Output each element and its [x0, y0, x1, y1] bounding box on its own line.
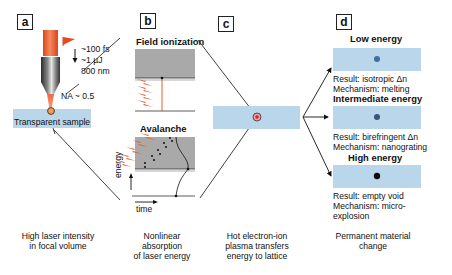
panel-label-b: b [140, 13, 156, 29]
connector-b-c-bottom [200, 121, 254, 198]
caption-a: High laser intensity in focal volume [8, 231, 108, 251]
panel-label-a: a [17, 14, 33, 30]
connector-a-b-bottom [54, 130, 120, 200]
field-ionization-title: Field ionization [136, 37, 204, 47]
field-ionization-diagram [135, 49, 195, 111]
high-energy-title: High energy [348, 153, 402, 163]
caption-c: Hot electron-ion plasma transfers energy… [212, 231, 302, 261]
laser-beam [43, 30, 58, 56]
panel-label-d: d [336, 14, 352, 30]
pulse-flag-icon [63, 37, 75, 46]
high-energy-mechanism-line1: Mechanism: micro- [333, 201, 406, 211]
intermediate-energy-result: Result: birefringent Δn [333, 132, 418, 142]
panel-label-c: c [218, 16, 234, 32]
pulse-energy: ~1 µJ [81, 55, 102, 65]
down-arrow-icon [73, 49, 78, 63]
energy-axis-arrow [129, 173, 133, 190]
pulse-wavelength: 800 nm [81, 66, 110, 76]
intermediate-energy-mechanism: Mechanism: nanograting [333, 142, 427, 152]
high-energy-result: Result: empty void [333, 191, 404, 201]
low-energy-dot [374, 56, 380, 62]
caption-d: Permanent material change [325, 231, 421, 251]
objective-lens-icon [41, 57, 60, 109]
low-energy-result: Result: isotropic Δn [333, 74, 407, 84]
time-axis-label: time [136, 204, 152, 214]
avalanche-diagram [116, 133, 195, 197]
caption-b: Nonlinear absorption of laser energy [117, 231, 207, 261]
branch-arrows [303, 68, 331, 176]
energy-axis-label: energy [113, 152, 123, 178]
intermediate-energy-title: Intermediate energy [333, 94, 422, 104]
low-energy-title: Low energy [350, 34, 402, 44]
intermediate-energy-dot [374, 114, 380, 120]
avalanche-title: Avalanche [140, 124, 187, 134]
pulse-duration: ~100 fs [81, 44, 109, 54]
high-energy-mechanism-line2: explosion [333, 211, 369, 221]
high-energy-void-dot [374, 173, 380, 179]
numerical-aperture: NA ~ 0.5 [61, 91, 94, 101]
sample-label: Transparent sample [14, 117, 90, 127]
connector-b-c-top [198, 40, 254, 113]
focal-spot-a [48, 108, 55, 115]
